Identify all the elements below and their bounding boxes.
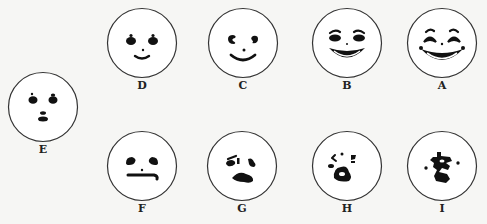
- label-a: A: [406, 79, 478, 92]
- face-c: [207, 7, 279, 79]
- face-d: [106, 7, 178, 79]
- face-e-drawing: [7, 71, 79, 143]
- face-d-drawing: [106, 7, 178, 79]
- face-i-drawing: [406, 130, 478, 202]
- face-f-drawing: [106, 130, 178, 202]
- label-f: F: [106, 202, 178, 215]
- face-e: [7, 71, 79, 143]
- face-f: [106, 130, 178, 202]
- face-c-drawing: [207, 7, 279, 79]
- face-i: [406, 130, 478, 202]
- face-g: [206, 130, 278, 202]
- label-c: C: [207, 79, 279, 92]
- face-h: [311, 130, 383, 202]
- face-g-drawing: [206, 130, 278, 202]
- label-h: H: [311, 202, 383, 215]
- label-e: E: [7, 143, 79, 156]
- label-d: D: [106, 79, 178, 92]
- face-b: [311, 7, 383, 79]
- face-h-drawing: [311, 130, 383, 202]
- label-g: G: [206, 202, 278, 215]
- face-a: [406, 7, 478, 79]
- label-i: I: [406, 202, 478, 215]
- label-b: B: [311, 79, 383, 92]
- face-a-drawing: [406, 7, 478, 79]
- face-b-drawing: [311, 7, 383, 79]
